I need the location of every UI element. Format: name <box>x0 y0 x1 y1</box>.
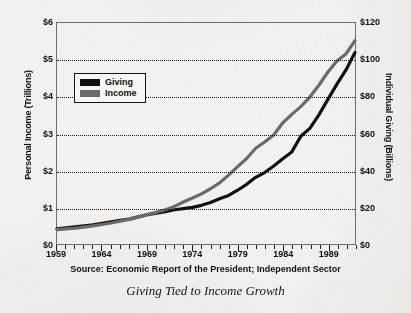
x-axis-tick: 1979 <box>228 249 248 259</box>
x-axis-tick: 1984 <box>273 249 293 259</box>
legend-swatch-icon <box>80 79 100 86</box>
y-axis-right-tick: $60 <box>360 130 375 139</box>
y-axis-left-tick: $1 <box>43 204 53 213</box>
y-axis-right-tick: $40 <box>360 167 375 176</box>
y-axis-left-tick: $2 <box>43 167 53 176</box>
x-axis-tick-labels: 1959196419691974197919841989 <box>0 249 411 263</box>
legend-item: Income <box>80 89 137 98</box>
y-axis-left-tick: $6 <box>43 18 53 27</box>
source-note: Source: Economic Report of the President… <box>0 264 411 274</box>
gridline <box>57 209 355 210</box>
legend-item: Giving <box>80 78 137 87</box>
x-axis-tick: 1989 <box>319 249 339 259</box>
x-axis-tick: 1964 <box>91 249 111 259</box>
y-axis-right-tick: $100 <box>360 55 380 64</box>
y-axis-right-tick: $120 <box>360 18 380 27</box>
x-axis-tick: 1959 <box>46 249 66 259</box>
x-axis-tick: 1974 <box>182 249 202 259</box>
figure-caption: Giving Tied to Income Growth <box>0 283 411 299</box>
plot-area <box>56 22 356 245</box>
legend-label: Giving <box>105 78 133 87</box>
chart-legend: GivingIncome <box>74 73 146 103</box>
x-axis-tick: 1969 <box>137 249 157 259</box>
y-axis-right-tick: $20 <box>360 204 375 213</box>
y-axis-right-tick: $80 <box>360 92 375 101</box>
y-axis-left-tick: $3 <box>43 130 53 139</box>
legend-label: Income <box>105 89 137 98</box>
chart-figure: Personal Income (Trillions) Individual G… <box>0 0 411 313</box>
gridline <box>57 135 355 136</box>
y-axis-left-tick: $4 <box>43 92 53 101</box>
y-axis-left-tick: $5 <box>43 55 53 64</box>
series-canvas <box>57 23 355 244</box>
gridline <box>57 60 355 61</box>
legend-swatch-icon <box>80 90 100 97</box>
gridline <box>57 172 355 173</box>
